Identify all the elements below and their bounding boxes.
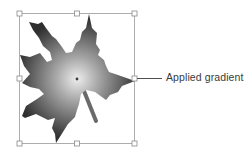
leaf-stem bbox=[84, 91, 96, 121]
handle-top-middle[interactable] bbox=[75, 11, 80, 16]
handle-bottom-left[interactable] bbox=[17, 141, 22, 146]
handle-top-right[interactable] bbox=[132, 11, 137, 16]
handle-top-left[interactable] bbox=[17, 11, 22, 16]
handle-bottom-right[interactable] bbox=[132, 141, 137, 146]
handle-bottom-middle[interactable] bbox=[75, 141, 80, 146]
handle-middle-right[interactable] bbox=[132, 76, 137, 81]
figure: Applied gradient bbox=[0, 0, 249, 154]
gradient-origin-point[interactable] bbox=[76, 78, 79, 81]
handle-middle-left[interactable] bbox=[17, 76, 22, 81]
callout-label: Applied gradient bbox=[166, 71, 244, 83]
